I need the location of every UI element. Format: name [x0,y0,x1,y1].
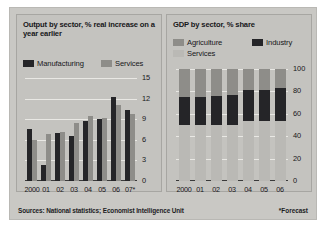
stack-segment [275,69,286,88]
y-axis-tick-label: 40 [293,131,313,140]
forecast-note: *Forecast [279,207,308,214]
bar-group [27,78,38,181]
bar-group [41,78,52,181]
bar [74,123,79,181]
legend-item-industry: Industry [252,33,292,51]
stack-segment [195,97,206,125]
stack-segment [211,125,222,181]
y-axis-tick-label: 15 [142,73,162,82]
bar [88,116,93,181]
bar [69,136,74,181]
bar [125,110,130,181]
y-axis-tick-label: 80 [293,86,313,95]
y-axis-tick-label: 0 [293,176,313,185]
stack-segment [195,125,206,181]
y-axis-tick-label: 20 [293,154,313,163]
stack-segment [179,125,190,181]
bar-group [55,78,66,181]
stacked-bar [211,69,222,181]
stack-segment [259,69,270,90]
bar-group [97,78,108,181]
bar-group [125,78,136,181]
stacked-bar [275,69,286,181]
x-axis-tick-label: 07* [119,185,141,194]
stacked-bar [179,69,190,181]
left-chart-title: Output by sector, % real increase on a y… [23,20,157,39]
legend-item-services-gdp: Services [173,44,215,62]
y-axis-tick-label: 9 [142,114,162,123]
chart-panel-gdp-by-sector: GDP by sector, % share Agriculture Indus… [166,14,312,192]
bar [97,119,102,181]
stack-segment [243,69,254,90]
right-chart-title: GDP by sector, % share [173,20,307,29]
bar [116,105,121,181]
chart-panel-output-by-sector: Output by sector, % real increase on a y… [16,14,162,192]
stacked-bar [195,69,206,181]
bar [41,165,46,182]
y-axis-tick-label: 60 [293,109,313,118]
legend-swatch-services [101,60,112,67]
y-axis-tick-label: 3 [142,155,162,164]
stacked-bar [259,69,270,181]
y-axis-tick-label: 100 [293,64,313,73]
stack-segment [211,96,222,125]
bar [46,134,51,181]
legend-label-industry: Industry [266,38,292,47]
stack-segment [227,95,238,125]
bar [111,97,116,182]
source-note: Sources: National statistics; Economist … [18,207,184,214]
bar-group [83,78,94,181]
stack-segment [179,97,190,125]
x-axis-tick-label: 06 [269,185,291,194]
legend-label-manufacturing: Manufacturing [37,59,84,68]
figure-container: Output by sector, % real increase on a y… [9,7,317,220]
stack-segment [195,69,206,97]
y-axis-tick-label: 12 [142,94,162,103]
stack-segment [275,88,286,121]
stack-segment [259,121,270,182]
bar [83,121,88,181]
bar [130,114,135,181]
legend-item-services: Services [101,54,143,72]
legend-swatch-manufacturing [23,60,34,67]
bar-group [111,78,122,181]
stack-segment [259,90,270,120]
legend-item-manufacturing: Manufacturing [23,54,84,72]
bar [60,132,65,181]
right-chart-plot-area: 020406080100 [176,69,288,181]
stack-segment [227,69,238,95]
legend-label-services: Services [115,59,143,68]
bar [32,140,37,181]
stack-segment [275,121,286,182]
stacked-bar [227,69,238,181]
stack-segment [227,125,238,181]
y-axis-tick-label: 6 [142,135,162,144]
legend-label-services-gdp: Services [187,49,215,58]
legend-swatch-services-gdp [173,50,184,57]
stack-segment [211,69,222,96]
bar [27,129,32,181]
bar-group [69,78,80,181]
y-axis-tick-label: 0 [142,176,162,185]
charts-row: Output by sector, % real increase on a y… [16,14,312,192]
stack-segment [243,121,254,182]
bar [55,133,60,181]
stack-segment [243,90,254,120]
bar [102,118,107,181]
stack-segment [179,69,190,97]
stacked-bar [243,69,254,181]
legend-swatch-industry [252,39,263,46]
left-chart-plot-area: 03691215 [25,78,137,181]
